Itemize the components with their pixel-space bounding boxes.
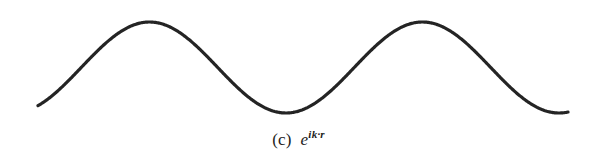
exponent-r-vector: r [320,128,325,140]
caption-index-label: (c) [272,130,291,149]
figure-container: (c)eik·r [0,0,597,162]
figure-caption: (c)eik·r [0,128,597,150]
caption-expression: eik·r [301,130,325,149]
caption-expression-exponent: ik·r [308,128,325,140]
